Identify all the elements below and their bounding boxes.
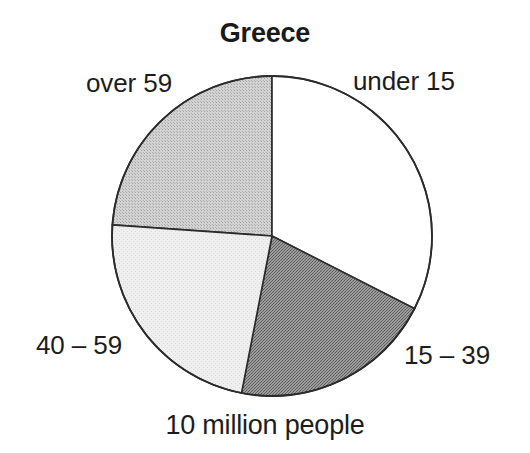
pie-label-15-39: 15 – 39 [404, 342, 490, 368]
pie-chart [111, 75, 433, 397]
page-title: Greece [0, 20, 530, 47]
chart-caption: 10 million people [0, 412, 530, 439]
pie-label-40-59: 40 – 59 [36, 332, 122, 358]
pie-label-under-15: under 15 [353, 68, 455, 94]
pie-chart-svg [111, 75, 433, 397]
pie-chart-figure: Greece [0, 0, 530, 453]
pie-slice-over-59[interactable] [112, 76, 272, 236]
pie-label-over-59: over 59 [86, 70, 172, 96]
